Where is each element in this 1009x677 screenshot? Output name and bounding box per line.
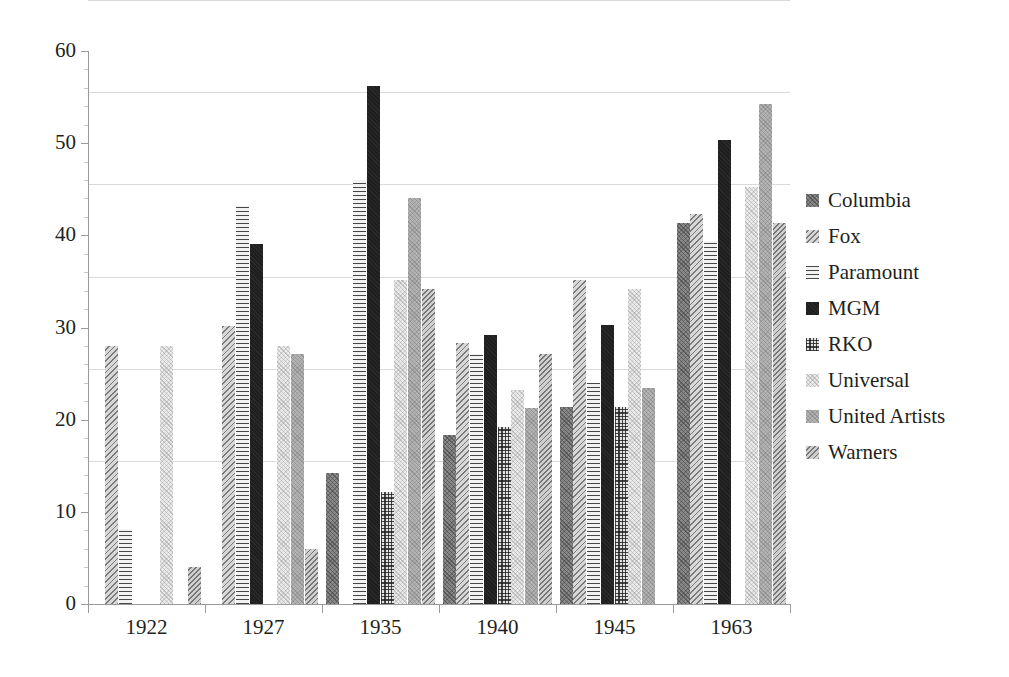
bar-paramount-1940 — [470, 354, 483, 604]
legend-item-mgm[interactable]: MGM — [806, 290, 1006, 326]
legend-item-united-artists[interactable]: United Artists — [806, 398, 1006, 434]
y-axis-label: 30 — [34, 317, 76, 338]
gridline — [88, 0, 790, 1]
bar-chart: 0102030405060 192219271935194019451963 C… — [0, 0, 1009, 677]
bar-fox-1927 — [222, 326, 235, 604]
bar-united-artists-1963 — [759, 104, 772, 604]
bar-warners-1935 — [422, 289, 435, 604]
legend-swatch-icon — [806, 338, 819, 351]
legend-swatch-icon — [806, 194, 819, 207]
bar-mgm-1927 — [250, 244, 263, 604]
bar-rko-1945 — [615, 407, 628, 604]
bar-united-artists-1940 — [525, 408, 538, 604]
bar-mgm-1945 — [601, 325, 614, 604]
x-axis-label-1940: 1940 — [439, 615, 556, 640]
bar-columbia-1935 — [326, 473, 339, 604]
bar-warners-1940 — [539, 354, 552, 604]
bar-columbia-1963 — [677, 223, 690, 604]
bar-united-artists-1945 — [642, 388, 655, 604]
legend-item-label: Paramount — [828, 262, 919, 283]
x-axis-tick — [556, 604, 557, 613]
x-axis-label-1945: 1945 — [556, 615, 673, 640]
bar-mgm-1940 — [484, 335, 497, 604]
bar-warners-1922 — [188, 567, 201, 604]
plot-area — [88, 51, 790, 604]
bar-universal-1945 — [628, 289, 641, 604]
x-axis-tick — [322, 604, 323, 613]
bar-universal-1922 — [160, 346, 173, 604]
x-axis-tick — [790, 604, 791, 613]
x-axis-label-1922: 1922 — [88, 615, 205, 640]
legend-item-columbia[interactable]: Columbia — [806, 182, 1006, 218]
bar-universal-1963 — [745, 187, 758, 605]
bar-columbia-1940 — [443, 435, 456, 604]
legend-item-universal[interactable]: Universal — [806, 362, 1006, 398]
x-axis-tick — [439, 604, 440, 613]
bar-mgm-1963 — [718, 140, 731, 604]
y-axis-label: 10 — [34, 501, 76, 522]
bar-universal-1927 — [277, 346, 290, 604]
bar-columbia-1945 — [560, 407, 573, 604]
legend: ColumbiaFoxParamountMGMRKOUniversalUnite… — [806, 182, 1006, 470]
bar-paramount-1945 — [587, 383, 600, 604]
y-axis-label: 40 — [34, 224, 76, 245]
legend-item-label: United Artists — [828, 406, 945, 427]
legend-swatch-icon — [806, 266, 819, 279]
y-axis-label: 20 — [34, 409, 76, 430]
bar-paramount-1922 — [119, 529, 132, 604]
x-axis-tick — [673, 604, 674, 613]
legend-swatch-icon — [806, 374, 819, 387]
legend-item-label: Fox — [828, 226, 861, 247]
bar-paramount-1963 — [704, 241, 717, 604]
y-axis-label: 60 — [34, 40, 76, 61]
legend-item-warners[interactable]: Warners — [806, 434, 1006, 470]
bar-united-artists-1935 — [408, 198, 421, 604]
bar-paramount-1935 — [353, 180, 366, 604]
bar-rko-1940 — [498, 427, 511, 604]
legend-swatch-icon — [806, 230, 819, 243]
legend-item-label: Universal — [828, 370, 910, 391]
legend-item-label: RKO — [828, 334, 872, 355]
y-axis-label: 0 — [34, 593, 76, 614]
bar-warners-1963 — [773, 223, 786, 604]
bar-fox-1940 — [456, 343, 469, 604]
legend-swatch-icon — [806, 302, 819, 315]
bar-universal-1940 — [511, 390, 524, 604]
x-axis-label-1963: 1963 — [673, 615, 790, 640]
legend-item-label: Columbia — [828, 190, 911, 211]
legend-item-fox[interactable]: Fox — [806, 218, 1006, 254]
legend-item-paramount[interactable]: Paramount — [806, 254, 1006, 290]
legend-item-label: Warners — [828, 442, 897, 463]
x-axis-label-1935: 1935 — [322, 615, 439, 640]
legend-swatch-icon — [806, 446, 819, 459]
x-axis-label-1927: 1927 — [205, 615, 322, 640]
x-axis-tick — [205, 604, 206, 613]
bar-warners-1927 — [305, 549, 318, 604]
bar-united-artists-1927 — [291, 354, 304, 604]
x-axis-tick — [88, 604, 89, 613]
bar-paramount-1927 — [236, 206, 249, 604]
bar-fox-1945 — [573, 280, 586, 604]
bar-universal-1935 — [394, 280, 407, 604]
legend-swatch-icon — [806, 410, 819, 423]
y-axis-label: 50 — [34, 132, 76, 153]
bar-fox-1922 — [105, 346, 118, 604]
legend-item-rko[interactable]: RKO — [806, 326, 1006, 362]
bar-rko-1935 — [381, 492, 394, 604]
bar-mgm-1935 — [367, 86, 380, 604]
legend-item-label: MGM — [828, 298, 881, 319]
bar-fox-1963 — [690, 214, 703, 604]
